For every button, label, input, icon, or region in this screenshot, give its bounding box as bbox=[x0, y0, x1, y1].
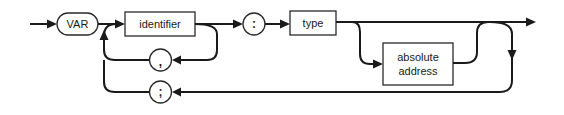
absolute-address-branch: absolute address bbox=[352, 22, 488, 85]
absolute-address-label-line2: address bbox=[398, 65, 438, 77]
arrow-left-icon bbox=[172, 56, 181, 65]
arrow-right-icon bbox=[373, 60, 383, 69]
comma-label: , bbox=[159, 55, 162, 69]
arrow-left-icon bbox=[172, 88, 181, 97]
identifier-label: identifier bbox=[139, 18, 181, 30]
arrow-right-icon bbox=[526, 18, 536, 27]
arrow-right-icon bbox=[280, 20, 290, 29]
colon-label: : bbox=[252, 17, 256, 31]
absolute-address-nonterminal bbox=[383, 43, 453, 85]
colon-terminal: : bbox=[243, 13, 265, 35]
colon-to-type-path bbox=[265, 20, 290, 29]
absolute-address-label-line1: absolute bbox=[397, 51, 439, 63]
arrow-right-icon bbox=[47, 20, 57, 29]
type-label: type bbox=[303, 17, 324, 29]
arrow-right-icon bbox=[115, 20, 125, 29]
entry-path bbox=[30, 20, 57, 29]
identifier-nonterminal: identifier bbox=[125, 12, 195, 36]
arrow-right-icon bbox=[233, 20, 243, 29]
var-terminal: VAR bbox=[57, 13, 98, 35]
var-label: VAR bbox=[67, 18, 89, 30]
arrow-up-icon bbox=[100, 30, 109, 40]
type-nonterminal: type bbox=[290, 11, 336, 35]
syntax-diagram: VAR identifier , : type bbox=[0, 0, 564, 115]
arrow-down-icon bbox=[508, 50, 517, 60]
semicolon-label: ; bbox=[159, 85, 163, 99]
